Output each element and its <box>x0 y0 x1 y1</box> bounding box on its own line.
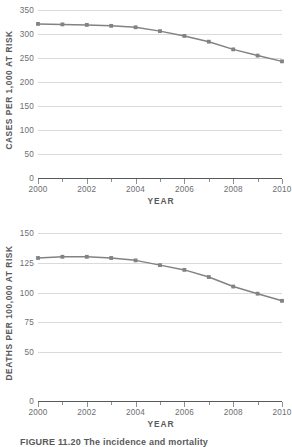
x-axis-tick-label: 2004 <box>126 185 145 194</box>
y-axis-tick-label: 75 <box>24 318 34 327</box>
x-axis-minor-tick <box>209 179 210 182</box>
x-axis-major-tick <box>38 402 39 407</box>
chart-panel-cases: CASES PER 1,000 AT RISK 0501001502002503… <box>0 2 284 215</box>
x-axis-major-tick <box>184 402 185 407</box>
x-axis-minor-tick <box>62 402 63 405</box>
x-axis-minor-tick <box>160 179 161 182</box>
y-axis-tick-label: 50 <box>24 150 34 159</box>
plot-area-deaths: 05075100125150200020022004200620082010 <box>38 233 282 401</box>
y-axis-title-deaths: DEATHS PER 100,000 AT RISK <box>0 225 18 400</box>
data-point-marker <box>36 256 40 260</box>
y-axis-tick-label: 350 <box>20 6 34 15</box>
data-point-marker <box>61 255 65 259</box>
data-point-marker <box>231 47 235 51</box>
x-axis-tick-label: 2006 <box>175 185 194 194</box>
x-axis-tick-label: 2008 <box>224 408 243 417</box>
plot-area-cases: 0501001502002503003502000200220042006200… <box>38 10 282 178</box>
y-axis-tick-label: 150 <box>20 229 34 238</box>
x-axis-tick-label: 2010 <box>272 408 291 417</box>
x-axis-minor-tick <box>62 179 63 182</box>
x-axis-tick-label: 2000 <box>28 185 47 194</box>
x-axis-major-tick <box>136 402 137 407</box>
data-point-marker <box>158 29 162 33</box>
data-point-marker <box>280 59 284 63</box>
x-axis-minor-tick <box>111 402 112 405</box>
data-point-marker <box>183 34 187 38</box>
x-axis-tick-label: 2004 <box>126 408 145 417</box>
data-point-marker <box>256 292 260 296</box>
x-axis-major-tick <box>233 179 234 184</box>
data-point-marker <box>158 263 162 267</box>
x-axis-major-tick <box>136 179 137 184</box>
y-axis-tick-label: 0 <box>29 397 34 406</box>
data-point-marker <box>134 25 138 29</box>
x-axis-title-cases: YEAR <box>38 196 284 206</box>
y-axis-tick-label: 0 <box>29 174 34 183</box>
x-axis-tick-label: 2000 <box>28 408 47 417</box>
x-axis-major-tick <box>38 179 39 184</box>
x-axis-minor-tick <box>258 179 259 182</box>
x-axis-minor-tick <box>111 179 112 182</box>
chart-panel-deaths: DEATHS PER 100,000 AT RISK 0507510012515… <box>0 225 284 438</box>
y-axis-title-deaths-label: DEATHS PER 100,000 AT RISK <box>4 245 14 380</box>
x-axis-major-tick <box>282 179 283 184</box>
data-point-marker <box>207 275 211 279</box>
data-point-marker <box>134 258 138 262</box>
y-axis-tick-label: 100 <box>20 288 34 297</box>
x-axis-minor-tick <box>258 402 259 405</box>
x-axis-major-tick <box>184 179 185 184</box>
data-series-deaths <box>38 233 282 401</box>
data-point-marker <box>183 268 187 272</box>
y-axis-tick-label: 250 <box>20 54 34 63</box>
figure-caption: FIGURE 11.20 The incidence and mortality <box>20 437 284 447</box>
x-axis-major-tick <box>87 402 88 407</box>
y-axis-title-cases-label: CASES PER 1,000 AT RISK <box>4 30 14 149</box>
y-axis-tick-label: 125 <box>20 258 34 267</box>
y-axis-tick-label: 50 <box>24 348 34 357</box>
x-axis-tick-label: 2002 <box>77 185 96 194</box>
x-axis-title-deaths: YEAR <box>38 419 284 429</box>
data-point-marker <box>109 24 113 28</box>
y-axis-tick-label: 100 <box>20 126 34 135</box>
x-axis-minor-tick <box>209 402 210 405</box>
data-point-marker <box>85 255 89 259</box>
x-axis-tick-label: 2002 <box>77 408 96 417</box>
data-point-marker <box>280 299 284 303</box>
x-axis-tick-label: 2008 <box>224 185 243 194</box>
data-point-marker <box>256 54 260 58</box>
y-axis-title-cases: CASES PER 1,000 AT RISK <box>0 2 18 177</box>
data-series-cases <box>38 10 282 178</box>
x-axis-major-tick <box>87 179 88 184</box>
data-point-marker <box>85 23 89 27</box>
y-axis-tick-label: 150 <box>20 102 34 111</box>
x-axis-major-tick <box>282 402 283 407</box>
data-point-marker <box>207 40 211 44</box>
data-point-marker <box>231 285 235 289</box>
y-axis-tick-label: 300 <box>20 30 34 39</box>
y-axis-tick-label: 200 <box>20 78 34 87</box>
data-point-marker <box>109 256 113 260</box>
data-point-marker <box>61 23 65 27</box>
data-point-marker <box>36 22 40 26</box>
x-axis-minor-tick <box>160 402 161 405</box>
x-axis-tick-label: 2006 <box>175 408 194 417</box>
x-axis-major-tick <box>233 402 234 407</box>
x-axis-tick-label: 2010 <box>272 185 291 194</box>
